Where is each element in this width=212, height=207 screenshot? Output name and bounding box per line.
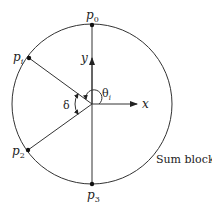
label-p0: p0 — [86, 8, 99, 24]
label-p2: p2 — [12, 144, 25, 160]
point-p2 — [26, 148, 30, 152]
label-pi: pi — [13, 50, 24, 66]
delta-arc-bottom — [75, 104, 78, 114]
circle-diagram: p0 pi p2 p3 y x θi δ Sum block — [0, 0, 212, 207]
point-pi — [27, 56, 31, 60]
point-p3 — [90, 182, 94, 186]
radius-p2 — [28, 104, 92, 150]
label-sum-block: Sum block — [156, 153, 212, 166]
label-p3: p3 — [87, 188, 100, 204]
label-theta: θi — [102, 87, 111, 102]
label-x-axis: x — [142, 97, 149, 111]
label-y-axis: y — [80, 51, 88, 65]
label-delta: δ — [63, 99, 70, 112]
delta-arc-top — [75, 94, 78, 104]
